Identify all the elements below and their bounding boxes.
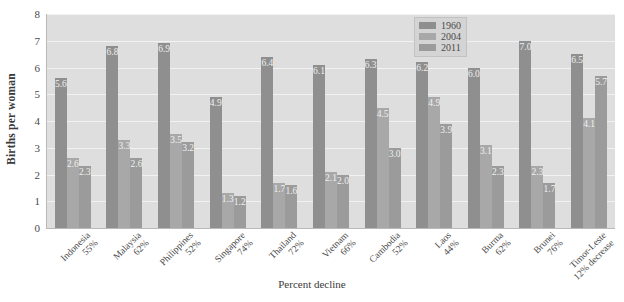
y-axis-title-text: Births per woman [5, 73, 17, 165]
y-axis-tick: 5 [35, 88, 41, 100]
bar[interactable]: 3.3 [118, 140, 130, 228]
bar-value-label: 1.3 [222, 194, 234, 204]
y-axis-tick: 3 [35, 142, 41, 154]
bar-value-label: 5.7 [595, 77, 607, 87]
bar[interactable]: 6.2 [416, 62, 428, 228]
legend-swatch [419, 33, 436, 40]
bar-value-label: 3.0 [389, 149, 401, 159]
bar-group: 6.34.53.0 [357, 14, 409, 228]
y-axis-tick-labels: 012345678 [22, 14, 44, 228]
bar-chart: Births per woman 012345678 5.62.62.36.83… [0, 0, 624, 302]
bar-value-label: 6.4 [261, 58, 273, 68]
bar[interactable]: 6.5 [571, 54, 583, 228]
bar-value-label: 1.7 [544, 184, 556, 194]
legend-item[interactable]: 1960 [419, 20, 461, 31]
bar[interactable]: 6.9 [158, 43, 170, 228]
bar[interactable]: 1.7 [273, 183, 285, 228]
bar[interactable]: 2.6 [130, 158, 142, 228]
bar[interactable]: 2.0 [337, 175, 349, 229]
x-axis-title: Percent decline [0, 278, 624, 290]
y-axis-tick: 4 [35, 115, 41, 127]
legend-item[interactable]: 2011 [419, 42, 461, 53]
bar-value-label: 4.5 [377, 109, 389, 119]
bar[interactable]: 5.6 [55, 78, 67, 228]
y-axis-tick: 6 [35, 62, 41, 74]
bar-value-label: 2.0 [337, 176, 349, 186]
bar-value-label: 6.9 [158, 44, 170, 54]
y-axis-tick: 0 [35, 222, 41, 234]
bar[interactable]: 3.2 [182, 142, 194, 228]
bar[interactable]: 4.9 [428, 97, 440, 228]
bar-value-label: 4.1 [583, 119, 595, 129]
bar[interactable]: 1.3 [222, 193, 234, 228]
bar-value-label: 2.1 [325, 173, 337, 183]
bar[interactable]: 6.3 [365, 59, 377, 228]
plot-area: 5.62.62.36.83.32.66.93.53.24.91.31.26.41… [47, 14, 615, 228]
legend-swatch [419, 22, 436, 29]
y-axis-tick: 1 [35, 195, 41, 207]
bar-group: 6.83.32.6 [99, 14, 151, 228]
bar[interactable]: 5.7 [595, 76, 607, 228]
bar-value-label: 4.9 [210, 98, 222, 108]
bar-value-label: 6.3 [365, 60, 377, 70]
y-axis-tick: 2 [35, 169, 41, 181]
bar-groups: 5.62.62.36.83.32.66.93.53.24.91.31.26.41… [47, 14, 615, 228]
bar-value-label: 7.0 [520, 42, 532, 52]
bar-value-label: 3.5 [170, 135, 182, 145]
bar-group: 5.62.62.3 [47, 14, 99, 228]
bar-value-label: 2.3 [532, 167, 544, 177]
bar[interactable]: 4.1 [583, 118, 595, 228]
bar[interactable]: 4.5 [377, 108, 389, 228]
bar[interactable]: 6.0 [468, 68, 480, 229]
bar-value-label: 6.0 [468, 69, 480, 79]
bar[interactable]: 4.9 [210, 97, 222, 228]
bar-value-label: 2.6 [131, 159, 143, 169]
bar-group: 6.03.12.3 [460, 14, 512, 228]
bar[interactable]: 3.0 [389, 148, 401, 228]
y-axis-tick: 8 [35, 8, 41, 20]
bar[interactable]: 3.1 [480, 145, 492, 228]
bar[interactable]: 6.4 [261, 57, 273, 228]
bar-group: 6.41.71.6 [254, 14, 306, 228]
bar-value-label: 2.6 [67, 159, 79, 169]
bar[interactable]: 3.5 [170, 134, 182, 228]
bar-value-label: 1.6 [285, 186, 297, 196]
bar-value-label: 3.1 [480, 146, 492, 156]
bar-group: 4.91.31.2 [202, 14, 254, 228]
bar-value-label: 6.2 [416, 63, 428, 73]
bar[interactable]: 6.8 [106, 46, 118, 228]
bar-value-label: 6.1 [313, 66, 325, 76]
bar-group: 6.93.53.2 [150, 14, 202, 228]
x-axis-line [46, 228, 615, 229]
bar[interactable]: 2.3 [531, 166, 543, 228]
bar[interactable]: 2.6 [67, 158, 79, 228]
bar[interactable]: 6.1 [313, 65, 325, 228]
bar[interactable]: 1.2 [234, 196, 246, 228]
bar-group: 6.12.12.0 [305, 14, 357, 228]
bar[interactable]: 1.6 [285, 185, 297, 228]
bar[interactable]: 2.1 [325, 172, 337, 228]
bar[interactable]: 1.7 [543, 183, 555, 228]
legend-label: 2011 [441, 42, 461, 53]
bar-value-label: 1.2 [234, 197, 246, 207]
bar-value-label: 2.3 [79, 167, 91, 177]
y-axis-tick: 7 [35, 35, 41, 47]
bar-group: 7.02.31.7 [512, 14, 564, 228]
bar[interactable]: 3.9 [440, 124, 452, 228]
legend-label: 2004 [441, 31, 461, 42]
bar[interactable]: 7.0 [519, 41, 531, 228]
bar-value-label: 3.3 [119, 141, 131, 151]
legend-label: 1960 [441, 20, 461, 31]
bar-group: 6.54.15.7 [563, 14, 615, 228]
bar[interactable]: 2.3 [492, 166, 504, 228]
y-axis-title: Births per woman [0, 0, 22, 238]
bar[interactable]: 2.3 [79, 166, 91, 228]
bar-value-label: 3.9 [440, 125, 452, 135]
bar-value-label: 6.5 [571, 55, 583, 65]
bar-value-label: 6.8 [107, 47, 119, 57]
bar-value-label: 1.7 [273, 184, 285, 194]
legend-swatch [419, 44, 436, 51]
legend-item[interactable]: 2004 [419, 31, 461, 42]
bar-value-label: 2.3 [492, 167, 504, 177]
bar-value-label: 4.9 [428, 98, 440, 108]
